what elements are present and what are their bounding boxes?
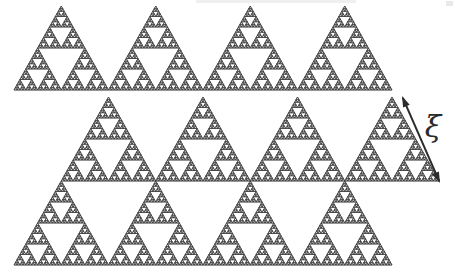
sierpinski-triangle [14, 181, 109, 265]
sierpinski-triangle [14, 6, 109, 90]
sierpinski-triangle [250, 97, 345, 181]
sierpinski-row [14, 181, 392, 265]
sierpinski-triangle [109, 181, 204, 265]
xi-symbol-label: ξ [425, 112, 442, 142]
sierpinski-triangle [61, 97, 156, 181]
sierpinski-triangle [298, 6, 393, 90]
sierpinski-triangle [203, 6, 298, 90]
sierpinski-triangle [298, 181, 393, 265]
figure-root: ξ [0, 0, 455, 278]
sierpinski-triangle [109, 6, 204, 90]
sierpinski-fractal-canvas [0, 0, 455, 278]
sierpinski-row [61, 97, 439, 181]
sierpinski-triangle [203, 181, 298, 265]
fractal-layer [14, 6, 439, 265]
sierpinski-row [14, 6, 392, 90]
sierpinski-triangle [156, 97, 251, 181]
xi-arrow-head-top [402, 96, 410, 108]
